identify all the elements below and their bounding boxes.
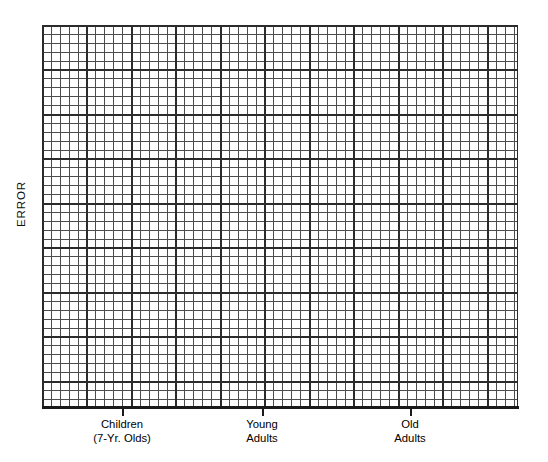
plot-area	[42, 25, 518, 408]
x-axis-line	[42, 406, 519, 409]
x-tick-label-young-adults-line2: Adults	[177, 432, 347, 446]
x-tick-mark-old-adults	[410, 408, 412, 416]
y-axis-title-label: ERROR	[15, 181, 27, 227]
chart-figure: ERROR Children (7-Yr. Olds) Young Adults…	[0, 0, 548, 462]
x-tick-label-young-adults-line1: Young	[177, 418, 347, 432]
plot-frame-border	[42, 25, 518, 408]
x-tick-label-old-adults-line2: Adults	[325, 432, 495, 446]
x-tick-label-young-adults: Young Adults	[177, 418, 347, 445]
x-tick-label-old-adults-line1: Old	[325, 418, 495, 432]
y-axis-title: ERROR	[0, 0, 42, 408]
x-tick-label-old-adults: Old Adults	[325, 418, 495, 445]
x-tick-mark-young-adults	[262, 408, 264, 416]
x-tick-mark-children	[122, 408, 124, 416]
